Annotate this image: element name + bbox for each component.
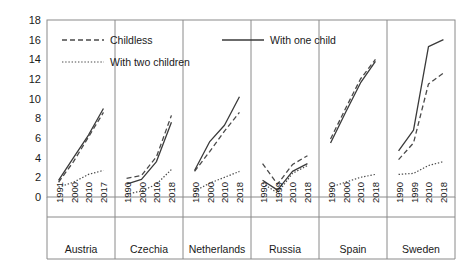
series-line-dotted xyxy=(331,174,376,187)
series-line-dashed xyxy=(127,115,172,178)
x-axis-tick-label: 2000 xyxy=(205,182,216,203)
legend-label: Childless xyxy=(110,34,153,46)
series-line-solid xyxy=(263,164,308,191)
x-axis-tick-label: 2017 xyxy=(98,182,109,203)
x-axis-tick-label: 1999 xyxy=(409,182,420,203)
x-axis-tick-label: 2018 xyxy=(302,182,313,203)
panel-dividers-group xyxy=(47,20,455,259)
legend-group: ChildlessWith one childWith two children xyxy=(62,34,336,68)
y-axis-tick-label: 16 xyxy=(29,34,41,46)
country-labels-group: AustriaCzechiaNetherlandsRussiaSpainSwed… xyxy=(65,243,440,255)
y-axis-ticks-group: 024681012141618 xyxy=(29,14,41,203)
y-axis-tick-label: 18 xyxy=(29,14,41,26)
y-axis-tick-label: 2 xyxy=(35,171,41,183)
x-axis-tick-label: 1990 xyxy=(122,182,133,203)
y-axis-tick-label: 4 xyxy=(35,152,41,164)
series-line-dashed xyxy=(195,112,240,171)
x-axis-tick-label: 1990 xyxy=(258,182,269,203)
x-axis-tick-label: 2010 xyxy=(151,182,162,203)
y-axis-tick-label: 10 xyxy=(29,93,41,105)
series-line-solid xyxy=(399,40,444,151)
panel-country-label: Sweden xyxy=(402,243,440,255)
series-line-dotted xyxy=(399,162,444,175)
series-line-dotted xyxy=(263,166,308,194)
x-axis-tick-label: 2010 xyxy=(423,182,434,203)
series-line-dotted xyxy=(195,171,240,191)
x-axis-tick-label: 2018 xyxy=(370,182,381,203)
y-axis-tick-label: 8 xyxy=(35,112,41,124)
series-line-solid xyxy=(127,122,172,184)
x-axis-tick-label: 2000 xyxy=(341,182,352,203)
x-axis-tick-label: 1991 xyxy=(54,182,65,203)
series-line-solid xyxy=(195,97,240,171)
x-axis-tick-label: 2018 xyxy=(166,182,177,203)
x-axis-tick-label: 2010 xyxy=(219,182,230,203)
legend-label: With one child xyxy=(270,34,336,46)
x-axis-tick-label: 2000 xyxy=(137,182,148,203)
x-axis-tick-label: 2010 xyxy=(355,182,366,203)
x-axis-tick-label: 2000 xyxy=(69,182,80,203)
x-axis-tick-label: 2010 xyxy=(83,182,94,203)
panel-country-label: Spain xyxy=(340,243,367,255)
panel-country-label: Russia xyxy=(269,243,301,255)
chart-container: 024681012141618 199120002010201719902000… xyxy=(0,0,467,270)
x-axis-tick-label: 2010 xyxy=(287,182,298,203)
x-axis-tick-label: 1999 xyxy=(273,182,284,203)
x-axis-tick-label: 1990 xyxy=(326,182,337,203)
x-axis-tick-label: 2018 xyxy=(438,182,449,203)
x-axis-tick-label: 1990 xyxy=(394,182,405,203)
y-axis-tick-label: 6 xyxy=(35,132,41,144)
y-axis-tick-label: 0 xyxy=(35,191,41,203)
panel-country-label: Czechia xyxy=(130,243,168,255)
x-axis-tick-label: 2018 xyxy=(234,182,245,203)
panel-country-label: Austria xyxy=(65,243,98,255)
panel-country-label: Netherlands xyxy=(189,243,246,255)
y-axis-tick-label: 12 xyxy=(29,73,41,85)
y-axis-tick-label: 14 xyxy=(29,53,41,65)
x-axis-tick-label: 1990 xyxy=(190,182,201,203)
series-line-solid xyxy=(331,61,376,143)
legend-label: With two children xyxy=(110,56,190,68)
series-line-solid xyxy=(59,109,104,181)
line-chart-small-multiples: 024681012141618 199120002010201719902000… xyxy=(0,0,467,270)
